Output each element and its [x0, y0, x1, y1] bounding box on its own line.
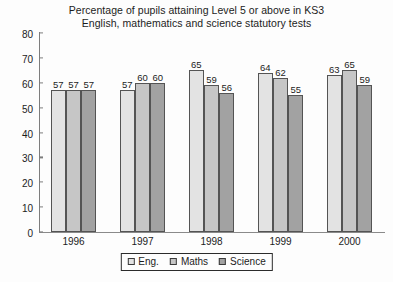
- x-axis-label-1998: 1998: [200, 236, 222, 247]
- bar-eng-1997: 57: [120, 90, 135, 232]
- x-axis-label-1997: 1997: [131, 236, 153, 247]
- bar-eng-1999: 64: [258, 73, 273, 232]
- legend-item-eng[interactable]: Eng.: [127, 256, 159, 267]
- bar-science-1998: 56: [219, 93, 234, 232]
- bar-maths-1999: 62: [273, 78, 288, 232]
- bar-value-label: 57: [53, 79, 64, 90]
- y-axis-tick-label: 60: [22, 79, 39, 90]
- plot-area: 80706050403020100 5757575760606559566462…: [39, 33, 384, 232]
- legend-swatch-icon: [127, 258, 134, 265]
- y-axis-tick-label: 40: [22, 129, 39, 140]
- bar-value-label: 57: [68, 79, 79, 90]
- y-axis-tick: 60: [22, 74, 39, 92]
- bar-maths-1996: 57: [66, 90, 81, 232]
- y-axis-tick-label: 10: [22, 203, 39, 214]
- bar-eng-1998: 65: [189, 70, 204, 232]
- legend-label: Maths: [181, 256, 208, 267]
- chart-title: Percentage of pupils attaining Level 5 o…: [0, 4, 393, 30]
- bar-group: 636559: [327, 33, 373, 232]
- bar-value-label: 59: [359, 74, 370, 85]
- bar-group: 646255: [258, 33, 304, 232]
- bar-maths-1998: 59: [204, 85, 219, 232]
- y-axis-tick-label: 50: [22, 104, 39, 115]
- legend-item-science[interactable]: Science: [219, 256, 266, 267]
- chart-legend: Eng.MathsScience: [120, 253, 272, 271]
- y-axis-tick: 40: [22, 124, 39, 142]
- chart-title-line-2: English, mathematics and science statuto…: [0, 17, 393, 30]
- y-axis-tick-label: 80: [22, 29, 39, 40]
- x-axis-label-1999: 1999: [269, 236, 291, 247]
- bar-value-label: 62: [275, 67, 286, 78]
- bar-group: 576060: [120, 33, 166, 232]
- x-axis-label-1996: 1996: [62, 236, 84, 247]
- bar-value-label: 57: [83, 79, 94, 90]
- legend-swatch-icon: [219, 258, 226, 265]
- bar-value-label: 60: [152, 72, 163, 83]
- y-axis-tick-label: 20: [22, 178, 39, 189]
- bar-value-label: 56: [221, 82, 232, 93]
- legend-label: Science: [230, 256, 266, 267]
- y-axis-tick-label: 30: [22, 153, 39, 164]
- bar-maths-2000: 65: [342, 70, 357, 232]
- bar-groups: 575757576060655956646255636559: [39, 33, 384, 232]
- y-axis-tick: 70: [22, 49, 39, 67]
- bar-science-2000: 59: [357, 85, 372, 232]
- bar-value-label: 60: [137, 72, 148, 83]
- bar-eng-2000: 63: [327, 75, 342, 232]
- y-axis-tick: 10: [22, 198, 39, 216]
- bar-science-1999: 55: [288, 95, 303, 232]
- y-axis-tick: 20: [22, 173, 39, 191]
- bar-value-label: 65: [344, 59, 355, 70]
- bar-group: 575757: [51, 33, 97, 232]
- legend-swatch-icon: [170, 258, 177, 265]
- bar-value-label: 55: [290, 84, 301, 95]
- y-axis-tick: 80: [22, 24, 39, 42]
- chart-title-line-1: Percentage of pupils attaining Level 5 o…: [0, 4, 393, 17]
- bar-value-label: 57: [122, 79, 133, 90]
- legend-label: Eng.: [138, 256, 159, 267]
- x-axis-line: [39, 232, 385, 233]
- y-axis-tick-label: 70: [22, 54, 39, 65]
- bar-value-label: 65: [191, 59, 202, 70]
- bar-value-label: 64: [260, 62, 271, 73]
- bar-science-1996: 57: [81, 90, 96, 232]
- x-axis-label-2000: 2000: [338, 236, 360, 247]
- bar-value-label: 63: [329, 64, 340, 75]
- y-axis-tick-label: 0: [27, 228, 39, 239]
- y-axis-tick: 50: [22, 99, 39, 117]
- bar-group: 655956: [189, 33, 235, 232]
- y-axis-tick: 0: [27, 223, 39, 241]
- legend-item-maths[interactable]: Maths: [170, 256, 208, 267]
- bar-eng-1996: 57: [51, 90, 66, 232]
- y-axis-tick: 30: [22, 148, 39, 166]
- bar-maths-1997: 60: [135, 83, 150, 232]
- x-axis-labels: 19961997199819992000: [39, 236, 384, 252]
- bar-value-label: 59: [206, 74, 217, 85]
- bar-science-1997: 60: [150, 83, 165, 232]
- chart-container: Percentage of pupils attaining Level 5 o…: [0, 0, 393, 282]
